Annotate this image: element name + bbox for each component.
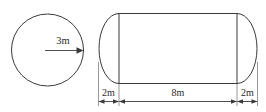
geometry-diagram-svg: 3m 2m — [0, 0, 266, 112]
arrow-head-body-right-icon — [231, 99, 237, 104]
arrow-head-right-inner-icon — [237, 99, 243, 104]
dimension-body-label: 8m — [172, 87, 185, 98]
dimension-right-cap-label: 2m — [241, 87, 254, 98]
radius-label: 3m — [56, 35, 69, 46]
radius-arrow — [45, 47, 84, 54]
dimension-left-cap: 2m — [99, 87, 120, 104]
dimension-body: 8m — [119, 87, 237, 104]
capsule-outline — [99, 14, 257, 84]
dimension-left-cap-label: 2m — [102, 87, 115, 98]
arrow-head-right-outer-icon — [252, 99, 258, 104]
arrow-head-body-left-icon — [119, 99, 125, 104]
radius-arrow-head-icon — [77, 47, 84, 54]
capsule-group — [99, 14, 257, 84]
dimension-right-cap: 2m — [237, 87, 258, 104]
arrow-head-left-inner-icon — [113, 99, 119, 104]
diagram-canvas: 3m 2m — [0, 0, 266, 112]
arrow-head-left-outer-icon — [99, 99, 105, 104]
circle-group: 3m — [12, 14, 84, 86]
cross-section-circle — [12, 14, 84, 86]
